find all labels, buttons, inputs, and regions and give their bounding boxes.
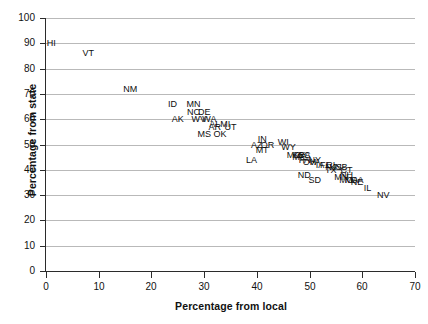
y-tick-label: 90: [3, 37, 35, 48]
x-tick-label: 50: [295, 281, 325, 292]
x-axis-line: [46, 271, 415, 272]
x-tick-mark: [362, 272, 363, 278]
x-tick-mark: [257, 272, 258, 278]
data-point-label: NM: [123, 84, 137, 93]
data-point-label: MS: [197, 130, 211, 139]
x-tick-mark: [46, 272, 47, 278]
x-tick-label: 60: [347, 281, 377, 292]
x-tick-label: 20: [136, 281, 166, 292]
x-tick-mark: [415, 272, 416, 278]
data-point-label: GA: [350, 175, 363, 184]
x-tick-mark: [99, 272, 100, 278]
data-point-label: MT: [256, 145, 269, 154]
x-tick-label: 70: [400, 281, 428, 292]
y-tick-label: 20: [3, 214, 35, 225]
y-tick-label: 40: [3, 164, 35, 175]
data-point-label: VT: [82, 49, 94, 58]
data-point-label: NV: [377, 191, 390, 200]
y-tick-label: 80: [3, 63, 35, 74]
x-tick-label: 40: [242, 281, 272, 292]
data-point-label: IL: [364, 183, 372, 192]
x-axis-title: Percentage from local: [46, 300, 416, 312]
data-point-label: AK: [172, 115, 184, 124]
y-tick-label: 50: [3, 139, 35, 150]
y-tick-label: 70: [3, 88, 35, 99]
y-tick-label: 30: [3, 189, 35, 200]
x-tick-mark: [151, 272, 152, 278]
y-tick-label: 60: [3, 113, 35, 124]
y-tick-label: 0: [3, 265, 35, 276]
x-tick-label: 10: [84, 281, 114, 292]
data-point-label: ID: [168, 100, 177, 109]
x-tick-label: 30: [189, 281, 219, 292]
x-tick-label: 0: [31, 281, 61, 292]
x-tick-mark: [310, 272, 311, 278]
data-point-label: OK: [213, 130, 226, 139]
y-tick-label: 100: [3, 12, 35, 23]
plot-area: HIVTNMIDMNNCDEAKWVWAALARMIUTOKMSAZINORMT…: [46, 18, 415, 271]
data-point-label: LA: [246, 155, 257, 164]
y-tick-label: 10: [3, 240, 35, 251]
x-tick-mark: [204, 272, 205, 278]
scatter-chart: Percentage from state Percentage from lo…: [0, 0, 428, 324]
data-point-label: HI: [47, 39, 56, 48]
data-point-label: SD: [309, 175, 322, 184]
